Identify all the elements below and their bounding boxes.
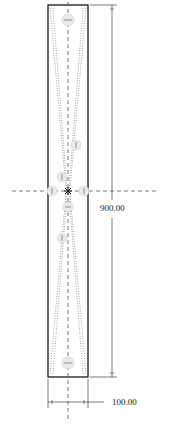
drawing-canvas bbox=[0, 0, 173, 425]
center-crosshair-icon bbox=[64, 187, 72, 195]
height-dimension-label: 900.00 bbox=[100, 203, 125, 213]
width-dimension-label: 100.00 bbox=[112, 397, 137, 407]
width-dimension bbox=[48, 379, 104, 408]
